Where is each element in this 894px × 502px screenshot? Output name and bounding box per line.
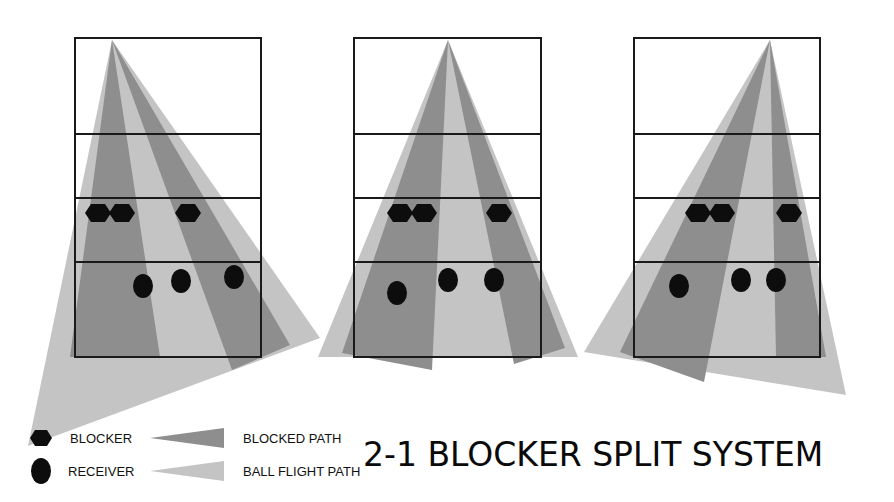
- receiver-icon: [224, 265, 244, 289]
- diagram-title: 2-1 BLOCKER SPLIT SYSTEM: [363, 435, 823, 474]
- receiver-icon: [171, 269, 191, 293]
- blocker-split-diagram: BLOCKER BLOCKED PATH RECEIVER BALL FLIGH…: [0, 0, 894, 502]
- ball-flight-path: [28, 40, 320, 446]
- receiver-icon: [766, 268, 786, 292]
- receiver-icon: [669, 274, 689, 298]
- blocked-path-legend-swatch: [150, 428, 224, 448]
- legend-ball-flight-path-label: BALL FLIGHT PATH: [243, 464, 360, 479]
- receiver-icon: [387, 281, 407, 305]
- court-left-attack: [28, 38, 320, 446]
- receiver-icon: [484, 268, 504, 292]
- ball-flight-path-legend-swatch: [150, 461, 224, 481]
- legend-blocked-path-label: BLOCKED PATH: [243, 431, 341, 446]
- receiver-legend-icon: [31, 458, 51, 484]
- legend-blocker-label: BLOCKER: [70, 431, 132, 446]
- legend-receiver-label: RECEIVER: [68, 464, 134, 479]
- legend: BLOCKER BLOCKED PATH RECEIVER BALL FLIGH…: [30, 428, 360, 484]
- receiver-icon: [731, 268, 751, 292]
- receiver-icon: [438, 268, 458, 292]
- receiver-icon: [133, 274, 153, 298]
- court-middle-attack: [318, 38, 578, 370]
- court-right-attack: [584, 38, 846, 395]
- courts-layer: [28, 38, 846, 446]
